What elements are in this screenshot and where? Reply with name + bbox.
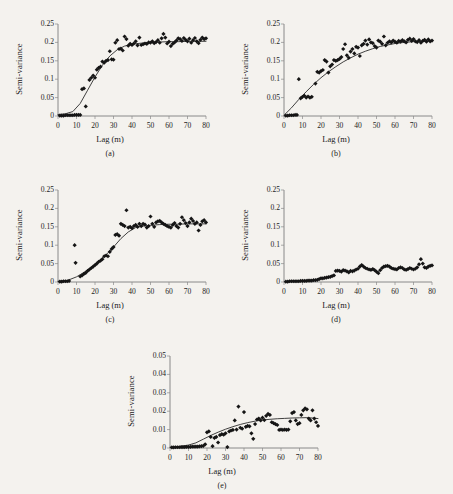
data-point-marker <box>316 424 320 428</box>
plot-area-d <box>226 172 446 296</box>
data-point-marker <box>312 416 316 420</box>
fitted-model-curve <box>58 41 206 114</box>
data-point-marker <box>310 408 314 412</box>
x-axis-label-d: Lag (m) <box>226 300 446 310</box>
plot-area-a <box>0 6 220 130</box>
chart-panel-a: Semi-variance00.050.10.150.20.2501020304… <box>0 6 220 164</box>
plot-area-b <box>226 6 446 130</box>
data-point-marker <box>84 104 88 108</box>
data-point-marker <box>197 228 201 232</box>
data-point-marker <box>216 440 220 444</box>
chart-panel-d: Semi-variance00.050.10.150.20.2501020304… <box>226 172 446 330</box>
panel-caption-d: (d) <box>226 315 446 324</box>
data-point-marker <box>209 435 213 439</box>
fitted-model-curve <box>284 41 432 115</box>
data-point-marker <box>249 431 253 435</box>
data-series-markers <box>58 32 208 118</box>
data-point-marker <box>148 214 152 218</box>
x-axis-label-b: Lag (m) <box>226 134 446 144</box>
data-point-marker <box>73 243 77 247</box>
data-point-marker <box>363 38 367 42</box>
data-point-marker <box>297 77 301 81</box>
data-point-marker <box>343 42 347 46</box>
data-point-marker <box>137 36 141 40</box>
data-point-marker <box>178 222 182 226</box>
data-series-markers <box>284 257 434 284</box>
x-axis-label-e: Lag (m) <box>112 466 332 476</box>
chart-panel-b: Semi-variance00.050.10.150.20.2501020304… <box>226 6 446 164</box>
data-point-marker <box>365 43 369 47</box>
data-point-marker <box>358 54 362 58</box>
panel-caption-a: (a) <box>0 149 220 158</box>
data-point-marker <box>288 419 292 423</box>
data-point-marker <box>225 445 229 449</box>
data-point-marker <box>314 420 318 424</box>
data-series-markers <box>170 405 320 450</box>
axis-lines <box>170 356 318 448</box>
data-point-marker <box>236 405 240 409</box>
data-point-marker <box>421 262 425 266</box>
data-point-marker <box>73 261 77 265</box>
data-point-marker <box>163 36 167 40</box>
x-axis-label-a: Lag (m) <box>0 134 220 144</box>
chart-panel-e: Semi-variance00.010.020.030.040.05010203… <box>112 338 332 494</box>
data-point-marker <box>124 208 128 212</box>
panel-caption-c: (c) <box>0 315 220 324</box>
data-point-marker <box>299 413 303 417</box>
data-point-marker <box>161 32 165 36</box>
chart-panel-c: Semi-variance00.050.10.150.20.2501020304… <box>0 172 220 330</box>
data-point-marker <box>341 47 345 51</box>
data-point-marker <box>242 410 246 414</box>
data-point-marker <box>313 82 317 86</box>
data-point-marker <box>294 418 298 422</box>
plot-area-e <box>112 338 332 462</box>
x-axis-label-c: Lag (m) <box>0 300 220 310</box>
data-series-markers <box>284 34 434 117</box>
data-point-marker <box>253 422 257 426</box>
data-point-marker <box>160 36 164 40</box>
data-point-marker <box>235 428 239 432</box>
fitted-model-curve <box>58 224 206 281</box>
data-point-marker <box>108 49 112 53</box>
data-series-markers <box>58 208 208 284</box>
data-point-marker <box>251 437 255 441</box>
panel-caption-e: (e) <box>112 481 332 490</box>
panel-caption-b: (b) <box>226 149 446 158</box>
data-point-marker <box>382 34 386 38</box>
data-point-marker <box>419 257 423 261</box>
plot-area-c <box>0 172 220 296</box>
axis-lines <box>58 190 206 282</box>
data-point-marker <box>233 418 237 422</box>
